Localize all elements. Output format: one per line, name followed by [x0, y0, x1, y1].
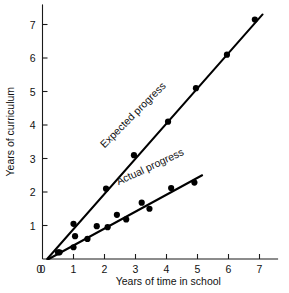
data-point [70, 244, 76, 250]
chart-figure: 0123456712345670Years of time in schoolY… [0, 0, 289, 293]
data-point [123, 216, 129, 222]
data-point [70, 221, 76, 227]
scatter-plot-canvas: 0123456712345670Years of time in schoolY… [0, 0, 289, 293]
data-point [56, 249, 62, 255]
x-tick-label: 3 [133, 263, 139, 275]
data-point [139, 200, 145, 206]
x-tick-label: 4 [164, 263, 170, 275]
series-trend-line [47, 14, 262, 259]
series-actual-progress: Actual progress [49, 145, 202, 259]
y-tick-label: 6 [30, 52, 36, 64]
data-point [131, 152, 137, 158]
data-point [193, 85, 199, 91]
x-tick-label: 7 [257, 263, 263, 275]
y-tick-label: 3 [30, 153, 36, 165]
data-point [114, 212, 120, 218]
series-annotation-label: Expected progress [97, 79, 167, 149]
x-axis-title: Years of time in school [116, 275, 221, 287]
y-tick-label: 5 [30, 86, 36, 98]
data-point [94, 223, 100, 229]
data-point [252, 16, 258, 22]
series-annotation-label: Actual progress [114, 145, 185, 187]
data-point [168, 185, 174, 191]
data-point [146, 206, 152, 212]
data-point [103, 186, 109, 192]
x-tick-label: 5 [195, 263, 201, 275]
data-point [105, 224, 111, 230]
y-axis-title: Years of curriculum [4, 87, 16, 177]
x-tick-label: 6 [226, 263, 232, 275]
origin-label: 0 [37, 263, 43, 275]
data-point [191, 180, 197, 186]
y-tick-label: 7 [30, 19, 36, 31]
y-tick-label: 1 [30, 220, 36, 232]
y-tick-label: 4 [30, 119, 36, 131]
series-expected-progress: Expected progress [47, 14, 262, 259]
y-tick-label: 2 [30, 186, 36, 198]
data-point [224, 52, 230, 58]
data-point [84, 236, 90, 242]
x-tick-label: 2 [102, 263, 108, 275]
data-point [165, 119, 171, 125]
data-point [72, 233, 78, 239]
x-tick-label: 1 [71, 263, 77, 275]
